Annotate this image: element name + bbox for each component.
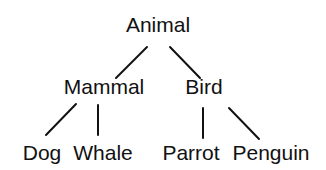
tree-diagram: Animal Mammal Bird Dog Whale Parrot Peng…: [0, 0, 326, 170]
edge-bird-penguin: [229, 108, 259, 139]
node-dog: Dog: [23, 142, 62, 164]
node-mammal: Mammal: [64, 76, 145, 98]
node-parrot: Parrot: [162, 142, 219, 164]
node-penguin: Penguin: [232, 142, 309, 164]
edge-animal-mammal: [116, 47, 147, 78]
edge-mammal-dog: [46, 104, 76, 135]
edge-animal-bird: [170, 47, 200, 78]
node-animal: Animal: [126, 14, 190, 36]
node-whale: Whale: [73, 142, 133, 164]
node-bird: Bird: [185, 76, 222, 98]
